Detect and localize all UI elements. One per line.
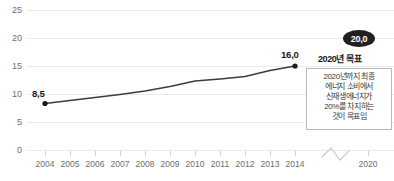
y-tick-label-0: 0 [0, 146, 22, 155]
data-label-2014: 16,0 [281, 49, 299, 60]
y-tick-label-25: 25 [0, 6, 22, 15]
y-tick-label-20: 20 [0, 34, 22, 43]
note-line-5: 것이 목표임 [332, 112, 367, 122]
x-tick-label-2020: 2020 [351, 160, 385, 169]
target-caption-label: 2020년 목표 [318, 52, 361, 65]
data-point-2014 [292, 63, 297, 68]
y-tick-label-15: 15 [0, 62, 22, 71]
data-label-2004: 8,5 [32, 88, 45, 99]
note-line-2: 에너지 소비에서 [325, 82, 373, 92]
axis-break-zigzag [322, 148, 349, 160]
note-line-1: 2020년까지 최종 [323, 72, 374, 82]
note-line-3: 신재생에너지가 [326, 92, 372, 102]
annotation-note-box: 2020년까지 최종 에너지 소비에서 신재생에너지가 20%를 차지하는 것이… [306, 68, 392, 130]
data-line-renewable-share [45, 66, 295, 104]
x-tick-marks [46, 151, 369, 156]
y-tick-label-5: 5 [0, 118, 22, 127]
chart-container: 25 20 15 10 5 0 2004 2005 2006 2007 2008… [0, 0, 394, 181]
data-point-2004 [42, 101, 47, 106]
x-tick-label-2014: 2014 [278, 160, 312, 169]
target-value-badge: 20,0 [343, 30, 375, 47]
note-line-4: 20%를 차지하는 [324, 102, 374, 112]
y-tick-label-10: 10 [0, 90, 22, 99]
